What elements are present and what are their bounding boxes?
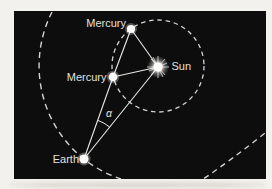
mercury-top-label: Mercury xyxy=(86,17,126,29)
earth-label: Earth xyxy=(53,153,79,165)
mercury-inner-dot xyxy=(109,73,118,82)
scanned-figure: Mercury Mercury Sun Earth α xyxy=(0,0,272,189)
sun-icon xyxy=(147,56,169,78)
mercury-inner-label: Mercury xyxy=(67,71,107,83)
elongation-angle-label: α xyxy=(106,107,113,119)
sun-label: Sun xyxy=(172,60,192,72)
sun-core xyxy=(154,63,163,72)
orbit-diagram-canvas: Mercury Mercury Sun Earth α xyxy=(0,0,272,189)
mercury-top-dot xyxy=(127,25,135,33)
earth-dot xyxy=(79,154,88,163)
scan-shadow xyxy=(8,183,266,187)
